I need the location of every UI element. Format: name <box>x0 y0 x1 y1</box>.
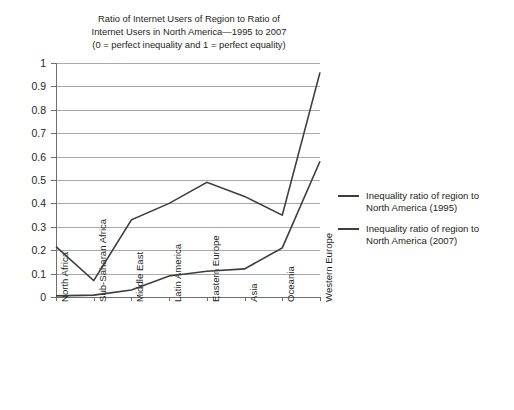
x-tick-mark <box>207 297 208 301</box>
x-tick-mark <box>94 297 95 301</box>
legend-entry-1995: Inequality ratio of region to North Amer… <box>338 190 510 215</box>
y-tick-label: 0.5 <box>12 175 46 185</box>
legend-entry-2007: Inequality ratio of region to North Amer… <box>338 223 510 248</box>
chart-page: Ratio of Internet Users of Region to Rat… <box>0 0 514 410</box>
series-line-1995 <box>56 161 320 296</box>
x-tick-mark <box>131 297 132 301</box>
chart-legend: Inequality ratio of region to North Amer… <box>338 190 510 256</box>
legend-label-2007-line1: Inequality ratio of region to <box>366 223 510 235</box>
x-tick-mark <box>169 297 170 301</box>
x-tick-mark <box>282 297 283 301</box>
y-tick-label: 0.6 <box>12 152 46 162</box>
x-tick-mark <box>245 297 246 301</box>
chart-title-line-3: (0 = perfect inequality and 1 = perfect … <box>44 38 334 51</box>
x-tick-label: Western Europe <box>324 233 334 302</box>
y-tick-label: 0.2 <box>12 245 46 255</box>
y-tick-label: 0.8 <box>12 105 46 115</box>
x-axis-line <box>56 297 320 298</box>
y-tick-label: 0.4 <box>12 198 46 208</box>
legend-line-icon <box>338 228 359 230</box>
y-tick-label: 0.3 <box>12 222 46 232</box>
y-tick-label: 1 <box>12 58 46 68</box>
y-tick-label: 0.7 <box>12 128 46 138</box>
y-tick-label: 0 <box>12 292 46 302</box>
chart-title: Ratio of Internet Users of Region to Rat… <box>44 12 334 52</box>
chart-title-line-1: Ratio of Internet Users of Region to Rat… <box>44 12 334 25</box>
y-tick-label: 0.1 <box>12 269 46 279</box>
chart-series-lines <box>56 63 320 297</box>
y-tick-label: 0.9 <box>12 81 46 91</box>
x-tick-mark <box>320 297 321 301</box>
legend-label-2007-line2: North America (2007) <box>366 235 510 247</box>
legend-label-1995-line1: Inequality ratio of region to <box>366 190 510 202</box>
legend-line-icon <box>338 195 359 197</box>
x-tick-mark <box>56 297 57 301</box>
legend-label-1995-line2: North America (1995) <box>366 202 510 214</box>
chart-title-line-2: Internet Users in North America—1995 to … <box>44 25 334 38</box>
